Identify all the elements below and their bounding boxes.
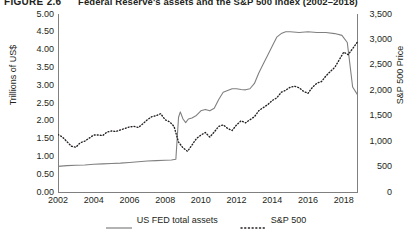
legend-swatch-dotted (240, 217, 266, 224)
figure-container: FIGURE 2.6 Federal Reserve's assets and … (0, 0, 412, 230)
left-tick-0.50: 0.50 (36, 170, 54, 179)
x-tick-2012: 2012 (227, 196, 247, 205)
legend-item-us-fed-total-assets: US FED total assets (106, 216, 218, 225)
right-axis-title: S&P 500 Price (395, 15, 405, 135)
x-tick-2018: 2018 (334, 196, 354, 205)
left-tick-4.00: 4.00 (36, 45, 54, 54)
right-tick-1,000: 1,000 (369, 137, 392, 146)
right-tick-500: 500 (377, 162, 392, 171)
left-tick-1.50: 1.50 (36, 134, 54, 143)
x-tick-2010: 2010 (191, 196, 211, 205)
left-tick-1.00: 1.00 (36, 152, 54, 161)
left-tick-2.50: 2.50 (36, 99, 54, 108)
figure-number: FIGURE 2.6 (4, 0, 61, 7)
left-tick-2.00: 2.00 (36, 116, 54, 125)
right-tick-1,500: 1,500 (369, 111, 392, 120)
figure-caption: FIGURE 2.6 Federal Reserve's assets and … (0, 0, 412, 9)
right-tick-2,500: 2,500 (369, 60, 392, 69)
chart-legend: US FED total assets S&P 500 (0, 213, 412, 227)
x-axis-line (58, 192, 358, 193)
left-tick-5.00: 5.00 (36, 10, 54, 19)
x-tick-2008: 2008 (155, 196, 175, 205)
x-tick-2016: 2016 (298, 196, 318, 205)
x-tick-2006: 2006 (119, 196, 139, 205)
legend-label-sp-500: S&P 500 (271, 216, 306, 225)
x-tick-2002: 2002 (48, 196, 68, 205)
legend-label-us-fed-total-assets: US FED total assets (137, 216, 218, 225)
x-tick-2004: 2004 (84, 196, 104, 205)
right-tick-2,000: 2,000 (369, 86, 392, 95)
right-tick-3,000: 3,000 (369, 35, 392, 44)
chart-svg (58, 14, 358, 192)
series-line-us-fed-total-assets (58, 32, 357, 167)
x-axis-tick-labels: 200220042006200820102012201420162018 (0, 196, 412, 210)
series-line-sp-500 (58, 42, 357, 151)
left-tick-4.50: 4.50 (36, 27, 54, 36)
left-axis-title: Trillions of US$ (8, 15, 18, 135)
legend-swatch-solid (106, 217, 132, 224)
x-tick-2014: 2014 (262, 196, 282, 205)
right-tick-3,500: 3,500 (369, 10, 392, 19)
left-tick-3.50: 3.50 (36, 63, 54, 72)
figure-caption-text: Federal Reserve's assets and the S&P 500… (78, 0, 358, 7)
legend-item-sp-500: S&P 500 (240, 216, 306, 225)
plot-area (58, 14, 358, 192)
left-tick-3.00: 3.00 (36, 81, 54, 90)
